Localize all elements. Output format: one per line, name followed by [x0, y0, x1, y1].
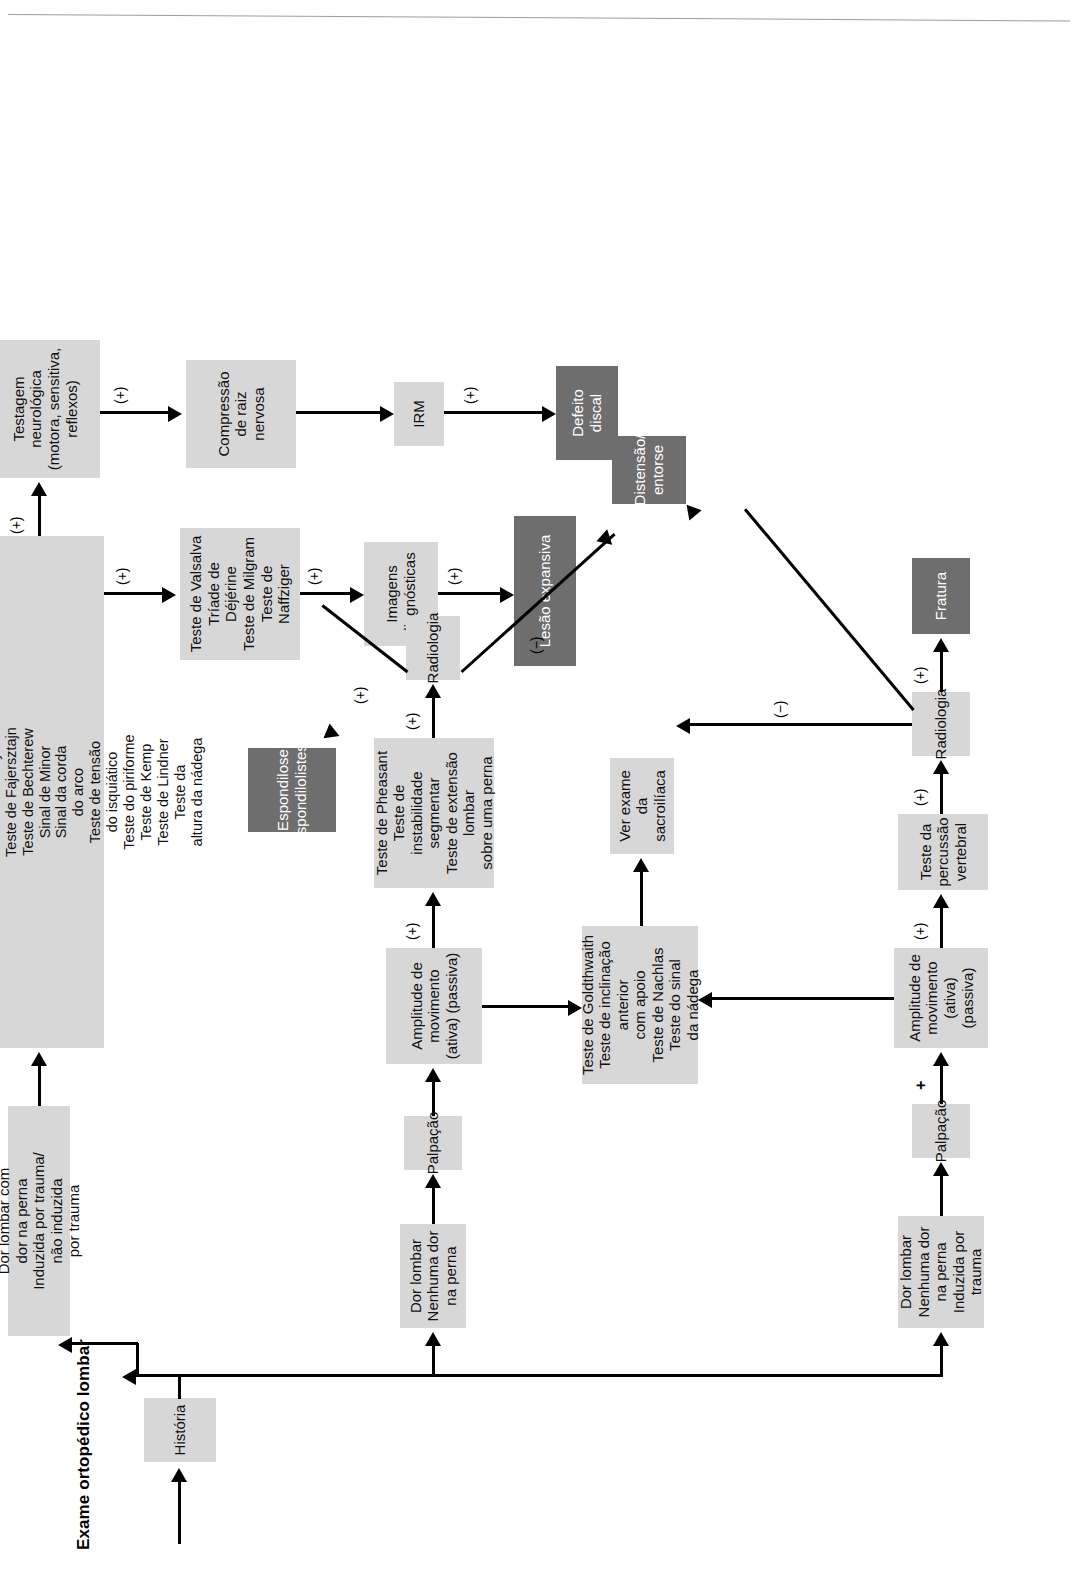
node-goldthwaith-group[interactable]: Teste de Goldthwaith Teste de inclinação…: [582, 926, 698, 1084]
node-dor-lombar-com-dor-perna[interactable]: Dor lombar com dor na perna Induzida por…: [8, 1106, 70, 1336]
connector-goldthwaith-to-sacroiliaca: [640, 868, 643, 926]
node-irm[interactable]: IRM: [394, 382, 444, 446]
connector-compressao-to-irm: [296, 411, 384, 414]
connector-pheasant-to-radiologia: [432, 694, 435, 738]
edge-label-imagens-to-lesao: (+): [446, 568, 462, 586]
arrowhead-branch-leg-pain: [122, 1369, 136, 1385]
connector-amplitude-to-goldthwaith: [482, 1005, 572, 1008]
arrowhead-neuro-to-compressao: [168, 406, 182, 422]
connector-amplitude-bot-to-goldthwaith: [712, 997, 894, 1000]
edge-label-testes-to-valsalva: (+): [114, 568, 130, 586]
edge-label-amplitude-to-percussao: (+): [912, 923, 928, 941]
arrowhead-branch-no-leg-pain: [425, 1332, 441, 1346]
connector-imagens-to-lesao: [438, 592, 504, 595]
node-radiologia-mid[interactable]: Radiologia: [406, 616, 460, 680]
connector-amplitude-to-percussao: [940, 904, 943, 948]
arrowhead-irm-to-defeito: [542, 406, 556, 422]
page-title: Exame ortopédico lombar: [74, 1339, 94, 1550]
connector-historia-out: [178, 1375, 181, 1399]
arrowhead-testes-to-valsalva: [162, 587, 176, 603]
node-testes-perna[interactable]: Teste da elevação da perna reta Teste de…: [0, 536, 104, 1048]
edge-label-radiologia-bot-to-sacroiliaca: (−): [772, 701, 788, 719]
arrowhead-percussao-to-radiologia-bot: [933, 760, 949, 774]
connector-irm-to-defeito: [444, 411, 546, 414]
connector-radiologia-bot-to-sacroiliaca: [690, 723, 912, 726]
arrowhead-palpacao-to-amplitude-bot: [933, 1052, 949, 1066]
node-radiologia-bot[interactable]: Radiologia: [912, 692, 970, 756]
edge-label-radiologia-to-espondilose: (+): [352, 687, 368, 705]
arrowhead-radiologia-to-espondilose: [319, 723, 340, 744]
node-fratura[interactable]: Fratura: [912, 558, 970, 634]
node-lesao-expansiva[interactable]: Lesão expansiva: [514, 516, 576, 666]
node-dor-lombar-trauma[interactable]: Dor lombar Nenhuma dor na perna Induzida…: [898, 1216, 984, 1328]
node-espondilose[interactable]: Espondilose Espondilolistese: [248, 748, 336, 832]
node-ver-exame-sacroiliaca[interactable]: Ver exame da sacroilíaca: [610, 758, 674, 854]
node-historia[interactable]: História: [144, 1398, 216, 1462]
edge-label-palpacao-to-amplitude-bot: +: [912, 1081, 930, 1090]
connector-neuro-to-compressao: [100, 411, 172, 414]
flowchart-canvas: Exame ortopédico lombar História Dor lom…: [0, 0, 1078, 1584]
connector-branch-no-leg-pain: [432, 1343, 435, 1377]
edge-label-radiologia-to-fratura: (+): [912, 667, 928, 685]
arrowhead-amplitude-bot-to-goldthwaith: [698, 992, 712, 1008]
connector-dor-to-palpacao-bot: [940, 1172, 943, 1216]
connector-branch-leg-pain: [136, 1343, 139, 1377]
arrowhead-dor-to-palpacao-mid: [425, 1174, 441, 1188]
edge-label-pheasant-to-radiologia: (+): [404, 713, 420, 731]
arrowhead-radiologia-bot-to-sacroiliaca: [676, 718, 690, 734]
node-testagem-neurologica[interactable]: Testagem neurológica (motora, sensitiva,…: [0, 340, 100, 478]
node-palpacao-mid[interactable]: Palpação: [404, 1116, 462, 1170]
connector-percussao-to-radiologia-bot: [940, 770, 943, 814]
arrowhead-to-dor-trauma-leg: [58, 1337, 72, 1353]
arrowhead-pheasant-to-radiologia: [425, 684, 441, 698]
node-dor-lombar-sem-dor-perna[interactable]: Dor lombar Nenhuma dor na perna: [400, 1224, 466, 1328]
arrowhead-branch-trauma: [933, 1332, 949, 1346]
node-amplitude-movimento-bot[interactable]: Amplitude de movimento (ativa) (passiva): [894, 948, 988, 1048]
node-amplitude-movimento-mid[interactable]: Amplitude de movimento (ativa) (passiva): [386, 948, 482, 1064]
connector-dor-to-palpacao-mid: [432, 1184, 435, 1224]
connector-testes-to-neuro: [38, 492, 41, 536]
edge-label-percussao-to-radiologia-bot: (+): [912, 789, 928, 807]
edge-label-radiologia-to-distensao: (−): [528, 637, 544, 655]
scanned-page: Exame ortopédico lombar História Dor lom…: [0, 0, 1078, 1584]
edge-label-neuro-to-compressao: (+): [112, 387, 128, 405]
node-testes-pheasant[interactable]: Teste de Pheasant Teste de instabilidade…: [374, 738, 494, 888]
connector-radiologia-to-fratura: [940, 648, 943, 692]
connector-palpacao-to-amplitude-mid: [432, 1078, 435, 1116]
arrowhead-dorleg-to-testes: [31, 1052, 47, 1066]
connector-start-to-historia: [178, 1480, 181, 1544]
arrowhead-goldthwaith-to-sacroiliaca: [633, 858, 649, 872]
edge-label-testes-to-neuro: (+): [8, 517, 24, 535]
connector-palpacao-to-amplitude-bot: [940, 1062, 943, 1104]
edge-label-valsalva-to-imagens: (+): [306, 568, 322, 586]
node-compressao-raiz-nervosa[interactable]: Compressão de raiz nervosa: [186, 360, 296, 468]
connector-testes-to-valsalva: [104, 592, 166, 595]
connector-amplitude-to-pheasant: [432, 902, 435, 948]
connector-radiologia-bot-to-distensao: [744, 508, 915, 711]
arrowhead-start-to-historia: [171, 1468, 187, 1482]
arrowhead-dor-to-palpacao-bot: [933, 1162, 949, 1176]
node-distensao-entorse[interactable]: Distensão/ entorse: [612, 436, 686, 504]
arrowhead-testes-to-neuro: [31, 482, 47, 496]
connector-branch-trauma: [940, 1343, 943, 1377]
node-palpacao-bot[interactable]: Palpação: [912, 1104, 970, 1158]
arrowhead-radiologia-to-fratura: [933, 638, 949, 652]
arrowhead-valsalva-to-imagens: [350, 587, 364, 603]
arrowhead-palpacao-to-amplitude-mid: [425, 1068, 441, 1082]
arrowhead-compressao-to-irm: [380, 406, 394, 422]
arrowhead-amplitude-to-pheasant: [425, 892, 441, 906]
edge-label-amplitude-to-pheasant: (+): [404, 923, 420, 941]
arrowhead-amplitude-to-percussao: [933, 894, 949, 908]
node-defeito-discal[interactable]: Defeito discal: [556, 366, 618, 460]
connector-historia-trunk: [136, 1374, 942, 1377]
connector-branch-leg-pain-v: [70, 1342, 138, 1345]
node-valsalva-group[interactable]: Teste de Valsalva Tríade de Déjérine Tes…: [180, 528, 300, 660]
edge-label-irm-to-defeito: (+): [462, 387, 478, 405]
connector-dorleg-to-testes: [38, 1062, 41, 1106]
connector-valsalva-to-imagens: [300, 592, 354, 595]
arrowhead-imagens-to-lesao: [500, 587, 514, 603]
node-teste-percussao-vertebral[interactable]: Teste da percussão vertebral: [898, 814, 988, 890]
